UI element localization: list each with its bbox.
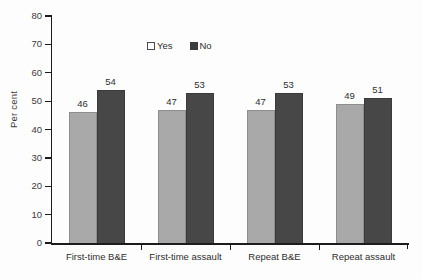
- legend-swatch-no-icon: [190, 42, 198, 50]
- bar-yes[interactable]: [336, 104, 364, 243]
- x-axis-group-tick: [319, 244, 320, 250]
- x-axis-category-label: First-time B&E: [52, 252, 141, 262]
- legend-item-no[interactable]: No: [190, 41, 212, 51]
- bar-no[interactable]: [364, 98, 392, 243]
- y-axis-tick-label: 20: [0, 181, 42, 191]
- legend-swatch-yes-icon: [147, 42, 155, 50]
- y-axis-tick-label: 10: [0, 210, 42, 220]
- bar-no[interactable]: [275, 93, 303, 243]
- legend-label-no: No: [200, 41, 212, 51]
- bar-yes[interactable]: [69, 112, 97, 243]
- y-axis-tick-label: 80: [0, 11, 42, 21]
- bar-yes[interactable]: [247, 110, 275, 243]
- bar-value-label: 54: [96, 77, 126, 87]
- y-axis-tick-label: 70: [0, 39, 42, 49]
- bar-value-label: 46: [68, 99, 98, 109]
- bar-value-label: 47: [246, 97, 276, 107]
- bar-yes[interactable]: [158, 110, 186, 243]
- x-axis-group-tick: [230, 244, 231, 250]
- bar-no[interactable]: [186, 93, 214, 243]
- x-axis-right-tick: [407, 243, 408, 249]
- y-axis-tick-label: 30: [0, 153, 42, 163]
- x-axis-category-label: First-time assault: [141, 252, 230, 262]
- bar-value-label: 53: [274, 80, 304, 90]
- y-axis-line: [51, 15, 52, 244]
- bar-chart: Per cent 01020304050607080 4654475347534…: [0, 0, 422, 279]
- y-axis-tick-label: 40: [0, 125, 42, 135]
- bar-no[interactable]: [97, 90, 125, 243]
- legend-label-yes: Yes: [157, 41, 173, 51]
- y-axis-tick-label: 0: [0, 238, 42, 248]
- x-axis-category-label: Repeat B&E: [230, 252, 319, 262]
- bar-value-label: 49: [335, 91, 365, 101]
- y-axis-title: Per cent: [8, 75, 19, 145]
- x-axis-group-tick: [141, 244, 142, 250]
- y-axis-tick-label: 60: [0, 68, 42, 78]
- y-axis-tick-label: 50: [0, 96, 42, 106]
- bar-value-label: 51: [363, 85, 393, 95]
- bar-value-label: 47: [157, 97, 187, 107]
- bar-value-label: 53: [185, 80, 215, 90]
- x-axis-category-label: Repeat assault: [319, 252, 408, 262]
- legend: Yes No: [147, 41, 212, 51]
- legend-item-yes[interactable]: Yes: [147, 41, 173, 51]
